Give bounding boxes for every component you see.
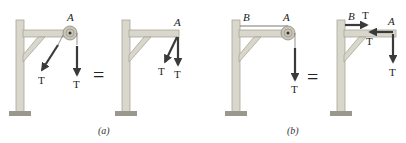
force-arrow-diagonal [42,45,58,70]
point-label-a: A [387,15,395,27]
panel-b-right-frame [330,20,396,116]
force-label: T [38,74,45,86]
brace [344,37,366,62]
beam [239,30,287,37]
panel-a-left-frame [9,20,77,116]
force-arrow-diagonal [165,37,177,62]
point-label-a: A [66,11,74,23]
force-label: T [366,35,373,47]
force-label: T [389,66,396,78]
equals-sign: = [93,64,104,86]
brace [239,37,261,62]
force-label: T [362,9,369,21]
brace [23,37,45,62]
force-label: T [291,83,298,95]
panel-a-right-frame [115,20,179,116]
brace [129,37,151,62]
panel-b-left-frame [225,20,295,116]
base [330,111,352,116]
force-label: T [174,68,181,80]
point-label-b: B [243,11,250,23]
beam [129,30,179,37]
force-label: T [73,78,80,90]
base [225,111,247,116]
force-label: T [158,65,165,77]
base [115,111,137,116]
point-label-a: A [173,16,181,28]
beam [23,30,69,37]
base [9,111,31,116]
caption-b: (b) [287,125,299,137]
point-label-a: A [282,11,290,23]
pulley-equivalence-diagram: A T T = A T T (a) B A T = [0,0,406,143]
point-label-b: B [348,10,355,22]
equals-sign: = [307,66,318,88]
caption-a: (a) [98,125,110,137]
